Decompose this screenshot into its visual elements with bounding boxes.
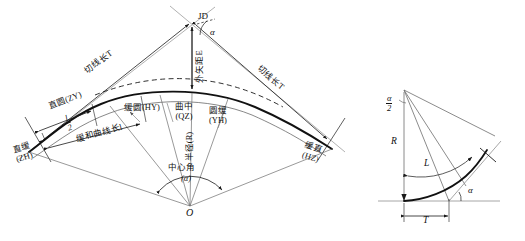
point-label-hy: 缓圆(HY) — [124, 103, 160, 112]
inset-angle-arc — [459, 192, 461, 201]
inset-angle-label: α — [468, 186, 473, 195]
central-angle-label: 中心角 — [168, 163, 195, 172]
central-angle-symbol: (α) — [181, 174, 191, 183]
vertex-label-jd: JD — [198, 12, 208, 21]
curve-diagram-root: JD α 切线长T 切线长T 外矢距E 直缓 (ZH) 直圆(ZY) l 2 缓… — [0, 0, 525, 241]
inset-half-angle-label: α 2 — [386, 94, 392, 114]
inset-arc-L — [408, 157, 472, 177]
inset-arc-length-label: L — [424, 159, 429, 169]
point-yh-cn: 圆缓 — [209, 105, 227, 115]
inset-diagram — [378, 90, 501, 222]
inset-end-tangent — [449, 141, 501, 201]
inset-half-angle-den: 2 — [386, 104, 392, 113]
inset-radius-label: R — [391, 137, 397, 147]
inset-rays — [404, 90, 495, 201]
vertex-angle-symbol: α — [210, 28, 215, 37]
point-label-yh: 圆缓 (YH) — [209, 106, 227, 125]
point-qz-cn: 曲中 — [175, 101, 193, 111]
external-distance-label: 外矢距E — [195, 38, 204, 94]
inset-tangent-label: T — [423, 216, 428, 226]
point-yh-code: (YH) — [209, 115, 227, 125]
diagram-canvas — [0, 0, 525, 241]
point-hy-cn: 缓圆 — [124, 102, 142, 112]
center-label-o: O — [186, 208, 193, 219]
point-hy-code: (HY) — [142, 102, 160, 112]
tangent-construction-lines — [18, 6, 345, 160]
inset-half-angle-arc — [399, 100, 406, 103]
